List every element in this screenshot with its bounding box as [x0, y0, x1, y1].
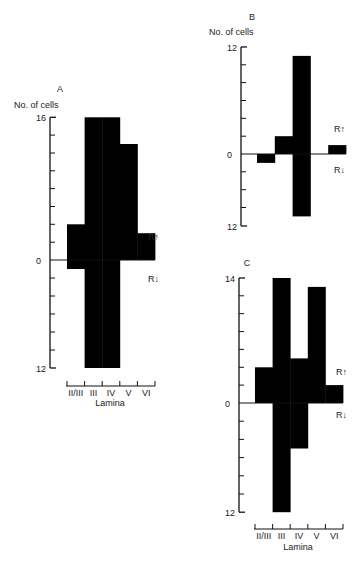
- legend-r-up: R↑: [336, 367, 347, 377]
- y-label-top: 12: [227, 43, 237, 53]
- y-label-bottom: 12: [227, 222, 237, 232]
- panel-letter: B: [249, 12, 255, 22]
- bar-down-iv: [102, 260, 120, 368]
- x-tick-label: II/III: [256, 531, 271, 541]
- panel-letter: C: [244, 258, 251, 268]
- bar-up-ii-iii: [255, 367, 273, 403]
- bar-up-v: [120, 144, 138, 260]
- y-label-zero: 0: [36, 256, 41, 266]
- bar-down-ii-iii: [257, 154, 275, 163]
- x-tick-label: IV: [295, 531, 304, 541]
- bar-up-iv: [102, 117, 120, 260]
- y-axis-title: No. of cells: [14, 100, 59, 110]
- y-label-zero: 0: [225, 399, 230, 409]
- x-tick-label: III: [90, 388, 98, 398]
- y-label-top: 14: [225, 274, 235, 284]
- x-axis-title: Lamina: [95, 398, 125, 408]
- bar-up-iv: [290, 358, 308, 403]
- bar-up-ii-iii: [67, 224, 85, 260]
- legend-r-down: R↓: [336, 410, 347, 420]
- y-label-bottom: 12: [225, 508, 235, 518]
- x-tick-label: III: [278, 531, 286, 541]
- panel-c-chart: 14012CR↑R↓II/IIIIIIIVVVILamina: [225, 258, 347, 552]
- bar-up-vi: [328, 145, 346, 154]
- x-tick-label: IV: [107, 388, 116, 398]
- panel-letter: A: [57, 84, 63, 94]
- lamina-histogram-figure: 16012ANo. of cellsR↑R↓II/IIIIIIIVVVILami…: [0, 0, 364, 570]
- y-axis-title: No. of cells: [209, 27, 254, 37]
- bar-up-iv: [293, 56, 311, 154]
- bar-up-iii: [273, 278, 291, 403]
- legend-r-down: R↓: [334, 165, 345, 175]
- legend-r-down: R↓: [148, 274, 159, 284]
- legend-r-up: R↑: [148, 232, 159, 242]
- bar-down-iii: [273, 403, 291, 512]
- y-label-top: 16: [36, 113, 46, 123]
- y-label-bottom: 12: [36, 364, 46, 374]
- panel-a-chart: 16012ANo. of cellsR↑R↓II/IIIIIIIVVVILami…: [14, 84, 159, 408]
- x-tick-label: V: [126, 388, 132, 398]
- bar-up-iii: [275, 136, 293, 154]
- bar-up-iii: [85, 117, 103, 260]
- x-axis-title: Lamina: [283, 542, 313, 552]
- x-tick-label: VI: [330, 531, 339, 541]
- x-tick-label: V: [314, 531, 320, 541]
- x-tick-label: VI: [142, 388, 151, 398]
- panel-b-chart: 12012BNo. of cellsR↑R↓: [209, 12, 346, 232]
- bar-down-ii-iii: [67, 260, 85, 269]
- legend-r-up: R↑: [334, 124, 345, 134]
- y-label-zero: 0: [227, 150, 232, 160]
- x-tick-label: II/III: [68, 388, 83, 398]
- bar-up-v: [308, 287, 326, 403]
- bar-down-iii: [85, 260, 103, 368]
- bar-up-vi: [325, 385, 343, 403]
- bar-down-iv: [290, 403, 308, 449]
- bar-down-iv: [293, 154, 311, 216]
